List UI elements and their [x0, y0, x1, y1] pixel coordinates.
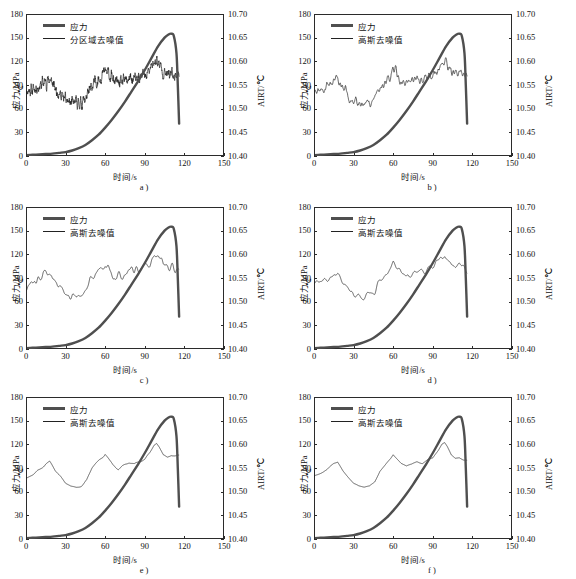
- xtick: 150: [212, 542, 236, 551]
- ytick-mark-right: [509, 539, 512, 540]
- denoised-airt-curve: [26, 443, 179, 487]
- ytick-mark-right: [221, 156, 224, 157]
- ytick-left: 30: [2, 128, 23, 137]
- ytick-mark-right: [509, 302, 512, 303]
- xtick: 0: [302, 542, 326, 551]
- ytick-left: 150: [2, 33, 23, 42]
- ytick-left: 120: [290, 57, 311, 66]
- xtick-mark: [184, 536, 185, 539]
- ytick-mark-right: [221, 85, 224, 86]
- ytick-mark-right: [221, 397, 224, 398]
- xtick-mark: [224, 536, 225, 539]
- xtick: 60: [93, 159, 117, 168]
- ytick-left: 180: [290, 203, 311, 212]
- xtick: 30: [342, 542, 366, 551]
- ytick-mark-right: [221, 132, 224, 133]
- xtick-mark: [145, 536, 146, 539]
- legend-swatch-denoise-icon: [331, 38, 353, 39]
- ytick-mark-right: [509, 254, 512, 255]
- ytick-left: 150: [290, 416, 311, 425]
- stress-curve: [314, 417, 467, 539]
- y-axis-label-left-unit: ℃: [305, 85, 313, 93]
- ytick-mark-left: [314, 539, 317, 540]
- ytick-mark-left: [26, 421, 29, 422]
- xtick: 30: [54, 352, 78, 361]
- denoised-airt-curve: [314, 58, 467, 107]
- xtick-mark: [145, 346, 146, 349]
- ytick-mark-right: [509, 85, 512, 86]
- legend-swatch-stress-icon: [331, 217, 353, 220]
- ytick-mark-right: [509, 14, 512, 15]
- ytick-mark-right: [221, 109, 224, 110]
- legend-swatch-stress-icon: [331, 24, 353, 27]
- ytick-right: 10.65: [228, 33, 247, 42]
- ytick-mark-right: [509, 515, 512, 516]
- ytick-right: 10.45: [516, 511, 535, 520]
- ytick-mark-left: [26, 231, 29, 232]
- plot-area-a: 030609012015018010.4010.4510.5010.5510.6…: [0, 0, 288, 193]
- ytick-mark-left: [314, 325, 317, 326]
- y-axis-label-right: AIRT/℃: [544, 268, 554, 300]
- ytick-right: 10.45: [228, 128, 247, 137]
- xtick: 0: [14, 542, 38, 551]
- legend-item: 应力: [331, 213, 403, 224]
- plot-area-c: 030609012015018010.4010.4510.5010.5510.6…: [0, 193, 288, 383]
- ytick-mark-right: [509, 349, 512, 350]
- ytick-right: 10.65: [516, 33, 535, 42]
- xtick-mark: [393, 346, 394, 349]
- ytick-mark-right: [509, 278, 512, 279]
- ytick-mark-left: [314, 421, 317, 422]
- ytick-mark-left: [26, 468, 29, 469]
- ytick-mark-left: [26, 349, 29, 350]
- x-axis-label: 时间/s: [26, 170, 224, 182]
- xtick: 30: [342, 159, 366, 168]
- ytick-mark-left: [26, 254, 29, 255]
- ytick-right: 10.50: [516, 297, 535, 306]
- y-axis-label-right: AIRT/℃: [544, 458, 554, 490]
- ytick-mark-left: [314, 207, 317, 208]
- ytick-mark-left: [26, 302, 29, 303]
- legend-item: 应力: [43, 20, 124, 31]
- ytick-right: 10.65: [516, 416, 535, 425]
- ytick-right: 10.55: [516, 464, 535, 473]
- ytick-right: 10.55: [516, 274, 535, 283]
- xtick: 60: [381, 159, 405, 168]
- ytick-left: 120: [2, 250, 23, 259]
- ytick-mark-left: [26, 278, 29, 279]
- legend-item: 高斯去噪值: [331, 416, 403, 427]
- ytick-left: 120: [290, 440, 311, 449]
- xtick-mark: [354, 346, 355, 349]
- legend-label: 应力: [358, 213, 376, 225]
- x-axis-label: 时间/s: [314, 170, 512, 182]
- ytick-right: 10.50: [516, 104, 535, 113]
- figure-panel-grid: 030609012015018010.4010.4510.5010.5510.6…: [0, 0, 576, 579]
- ytick-left: 120: [290, 250, 311, 259]
- xtick: 90: [133, 159, 157, 168]
- ytick-mark-right: [221, 278, 224, 279]
- xtick: 120: [460, 352, 484, 361]
- ytick-mark-right: [221, 515, 224, 516]
- ytick-mark-left: [314, 61, 317, 62]
- ytick-mark-right: [221, 468, 224, 469]
- xtick-mark: [354, 153, 355, 156]
- denoised-airt-curve: [314, 257, 467, 300]
- xtick-mark: [393, 536, 394, 539]
- xtick-mark: [433, 346, 434, 349]
- ytick-mark-left: [314, 444, 317, 445]
- ytick-mark-left: [314, 468, 317, 469]
- stress-curve: [314, 227, 467, 349]
- ytick-mark-right: [221, 349, 224, 350]
- xtick-mark: [314, 346, 315, 349]
- legend-c: 应力高斯去噪值: [43, 213, 115, 239]
- ytick-mark-right: [509, 132, 512, 133]
- ytick-mark-right: [221, 207, 224, 208]
- ytick-right: 10.60: [516, 440, 535, 449]
- legend-label: 应力: [358, 20, 376, 32]
- ytick-mark-right: [509, 109, 512, 110]
- x-axis-label: 时间/s: [314, 553, 512, 565]
- ytick-mark-left: [26, 444, 29, 445]
- ytick-left: 180: [2, 393, 23, 402]
- ytick-mark-right: [509, 156, 512, 157]
- xtick: 30: [54, 542, 78, 551]
- ytick-mark-right: [221, 38, 224, 39]
